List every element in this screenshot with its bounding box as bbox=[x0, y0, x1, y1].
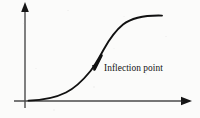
sigmoid-curve bbox=[29, 16, 163, 101]
figure-canvas: Inflection point bbox=[0, 0, 200, 118]
inflection-point-label: Inflection point bbox=[104, 63, 163, 73]
x-axis-arrowhead bbox=[181, 97, 192, 105]
y-axis-arrowhead bbox=[21, 2, 29, 12]
sigmoid-inflection-figure: Inflection point bbox=[0, 0, 200, 118]
